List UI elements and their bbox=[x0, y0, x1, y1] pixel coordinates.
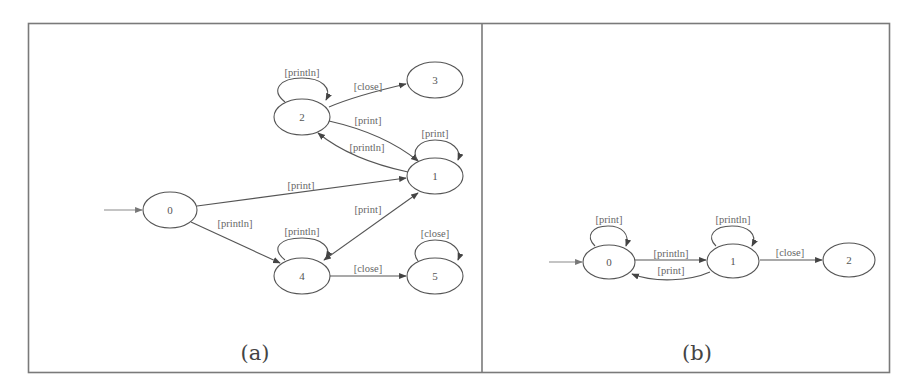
edge-label: [print] bbox=[596, 214, 623, 225]
edge-a-2-3: [close] bbox=[329, 81, 406, 107]
edge-a-2-1: [print] bbox=[329, 115, 418, 161]
state-node-a-2: 2 bbox=[274, 99, 330, 135]
edge-b-0-1: [println] bbox=[635, 248, 706, 260]
state-machine-figure: [print] [println] [println] [close] [pri… bbox=[0, 0, 912, 389]
edge-a-4-5: [close] bbox=[330, 263, 406, 276]
edge-a-4-1: [print] bbox=[324, 193, 418, 260]
edge-label: [close] bbox=[354, 263, 383, 274]
edge-label: [print] bbox=[355, 115, 382, 126]
svg-text:3: 3 bbox=[432, 74, 438, 86]
edge-a-2-2: [println] bbox=[278, 67, 328, 102]
edge-a-5-5: [close] bbox=[415, 228, 459, 261]
edge-label: [close] bbox=[421, 228, 450, 239]
edge-label: [close] bbox=[776, 247, 805, 258]
edge-b-1-0: [print] bbox=[632, 265, 710, 280]
edge-label: [print] bbox=[288, 180, 315, 191]
svg-text:5: 5 bbox=[432, 270, 438, 282]
state-node-a-3: 3 bbox=[407, 62, 463, 98]
state-node-a-1: 1 bbox=[407, 158, 463, 194]
edge-b-0-0: [print] bbox=[590, 214, 627, 246]
state-node-b-0: 0 bbox=[583, 245, 635, 279]
edge-label: [println] bbox=[285, 226, 320, 237]
svg-text:4: 4 bbox=[299, 270, 305, 282]
state-node-b-1: 1 bbox=[707, 244, 759, 278]
edge-label: [println] bbox=[654, 248, 689, 259]
state-node-b-2: 2 bbox=[823, 243, 875, 277]
edge-label: [println] bbox=[285, 67, 320, 78]
edge-label: [print] bbox=[355, 204, 382, 215]
svg-text:2: 2 bbox=[846, 254, 852, 266]
svg-text:1: 1 bbox=[432, 170, 438, 182]
edge-b-1-1: [println] bbox=[712, 214, 754, 246]
caption-b: (b) bbox=[682, 341, 712, 365]
svg-text:1: 1 bbox=[730, 255, 736, 267]
edge-b-1-2: [close] bbox=[760, 247, 822, 260]
edge-label: [println] bbox=[716, 214, 751, 225]
state-node-a-4: 4 bbox=[274, 258, 330, 294]
panel-a: [print] [println] [println] [close] [pri… bbox=[104, 62, 463, 365]
edge-a-0-1: [print] bbox=[197, 178, 406, 206]
state-node-a-5: 5 bbox=[407, 258, 463, 294]
edge-a-0-4: [println] bbox=[191, 218, 280, 263]
edge-a-4-4: [println] bbox=[278, 226, 328, 260]
svg-text:2: 2 bbox=[299, 111, 305, 123]
edge-label: [println] bbox=[350, 142, 385, 153]
edge-label: [close] bbox=[354, 81, 383, 92]
edge-a-1-2: [println] bbox=[318, 133, 408, 172]
svg-text:0: 0 bbox=[167, 204, 173, 216]
edge-label: [print] bbox=[658, 265, 685, 276]
svg-text:0: 0 bbox=[606, 256, 612, 268]
panel-b: [print] [println] [print] [println] [clo… bbox=[549, 214, 875, 365]
caption-a: (a) bbox=[241, 341, 270, 365]
edge-label: [println] bbox=[218, 218, 253, 229]
state-node-a-0: 0 bbox=[143, 192, 197, 228]
edge-a-1-1: [print] bbox=[415, 128, 459, 161]
edge-label: [print] bbox=[422, 128, 449, 139]
